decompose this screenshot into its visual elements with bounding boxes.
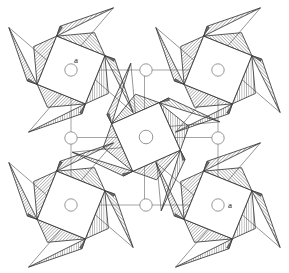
- atom-circle-corner-top-left: [65, 64, 77, 76]
- tetrahedron-face-outer: [29, 239, 86, 267]
- tetrahedron-face-outer: [252, 191, 280, 248]
- atom-circle-corner-top-right: [212, 64, 224, 76]
- atom-circle-edge-bottom-mid: [140, 199, 152, 211]
- tetrahedron-face-outer: [204, 8, 261, 36]
- axis-label-a-bottom-right: a: [228, 200, 232, 210]
- crystal-structure-diagram: aa: [0, 0, 289, 273]
- tetrahedron-face-outer: [29, 104, 86, 132]
- tetrahedron-face-outer: [57, 8, 114, 36]
- atom-circle-corner-bottom-right: [212, 199, 224, 211]
- tetrahedron-face-outer: [105, 191, 133, 248]
- tetrahedron-face-outer: [9, 163, 37, 220]
- tetrahedron-face-outer: [156, 28, 184, 85]
- tetrahedron-face-outer: [176, 239, 233, 267]
- axis-label-a-top-left: a: [74, 55, 78, 65]
- atom-circle-center: [139, 130, 153, 144]
- tetrahedron-face-outer: [252, 56, 280, 113]
- figure-canvas: aa: [0, 0, 289, 273]
- atom-circle-corner-bottom-left: [65, 199, 77, 211]
- tetrahedron-face-outer: [9, 28, 37, 85]
- tetrahedron-face-outer: [204, 143, 261, 171]
- atom-circle-edge-left-mid: [65, 132, 77, 144]
- atom-circle-edge-top-mid: [140, 64, 152, 76]
- atom-circle-edge-right-mid: [212, 132, 224, 144]
